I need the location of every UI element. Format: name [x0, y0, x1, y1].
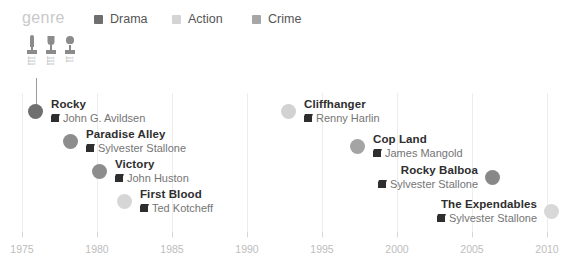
- film-director: Sylvester Stallone: [98, 142, 186, 155]
- plot-area: RockyJohn G. AvildsenParadise AlleySylve…: [0, 0, 570, 240]
- genre-dot-icon: [63, 134, 78, 149]
- film-marker[interactable]: Paradise AlleySylvester Stallone: [63, 126, 186, 156]
- genre-dot-icon: [544, 204, 559, 219]
- tick-label: 1990: [235, 243, 258, 255]
- tick-label: 2005: [460, 243, 483, 255]
- film-director: James Mangold: [385, 147, 463, 160]
- genre-dot-icon: [485, 170, 500, 185]
- genre-dot-icon: [28, 104, 43, 119]
- clapperboard-icon: [86, 144, 94, 152]
- film-text: The ExpendablesSylvester Stallone: [437, 198, 537, 225]
- genre-dot-icon: [350, 139, 365, 154]
- film-director-row: James Mangold: [373, 147, 463, 160]
- clapperboard-icon: [378, 180, 386, 188]
- tick-mark: [397, 232, 398, 237]
- tick-label: 1995: [310, 243, 333, 255]
- film-marker[interactable]: CliffhangerRenny Harlin: [281, 96, 380, 126]
- tick-label: 1980: [85, 243, 108, 255]
- film-title: Rocky Balboa: [378, 164, 478, 177]
- film-title: Rocky: [51, 98, 145, 111]
- timeline-chart: genre DramaActionCrime Award Award Award…: [0, 0, 570, 266]
- film-director: Renny Harlin: [316, 112, 380, 125]
- film-marker[interactable]: RockyJohn G. Avildsen: [28, 96, 145, 126]
- tick-label: 1985: [160, 243, 183, 255]
- film-text: Rocky BalboaSylvester Stallone: [378, 164, 478, 191]
- film-text: CliffhangerRenny Harlin: [304, 98, 380, 125]
- film-title: Cop Land: [373, 133, 463, 146]
- film-director-row: Sylvester Stallone: [86, 142, 186, 155]
- tick-label: 2000: [385, 243, 408, 255]
- film-title: Paradise Alley: [86, 128, 186, 141]
- tick-label: 1975: [10, 243, 33, 255]
- film-director-row: John G. Avildsen: [51, 112, 145, 125]
- tick-label: 2010: [535, 243, 558, 255]
- clapperboard-icon: [304, 114, 312, 122]
- tick-mark: [97, 232, 98, 237]
- tick-mark: [547, 232, 548, 237]
- film-director-row: Sylvester Stallone: [378, 178, 478, 191]
- film-director-row: Sylvester Stallone: [437, 212, 537, 225]
- film-title: The Expendables: [437, 198, 537, 211]
- clapperboard-icon: [373, 149, 381, 157]
- film-title: Cliffhanger: [304, 98, 380, 111]
- film-director: John G. Avildsen: [63, 112, 145, 125]
- tick-mark: [322, 232, 323, 237]
- film-director: Sylvester Stallone: [449, 212, 537, 225]
- tick-mark: [172, 232, 173, 237]
- tick-mark: [247, 232, 248, 237]
- film-marker[interactable]: Cop LandJames Mangold: [350, 131, 463, 161]
- film-text: Cop LandJames Mangold: [373, 133, 463, 160]
- film-marker[interactable]: Rocky BalboaSylvester Stallone: [0, 162, 500, 192]
- genre-dot-icon: [281, 104, 296, 119]
- clapperboard-icon: [51, 114, 59, 122]
- tick-mark: [472, 232, 473, 237]
- film-director: Sylvester Stallone: [390, 178, 478, 191]
- clapperboard-icon: [437, 214, 445, 222]
- film-director-row: Renny Harlin: [304, 112, 380, 125]
- tick-mark: [22, 232, 23, 237]
- film-text: RockyJohn G. Avildsen: [51, 98, 145, 125]
- film-marker[interactable]: The ExpendablesSylvester Stallone: [0, 196, 559, 226]
- film-text: Paradise AlleySylvester Stallone: [86, 128, 186, 155]
